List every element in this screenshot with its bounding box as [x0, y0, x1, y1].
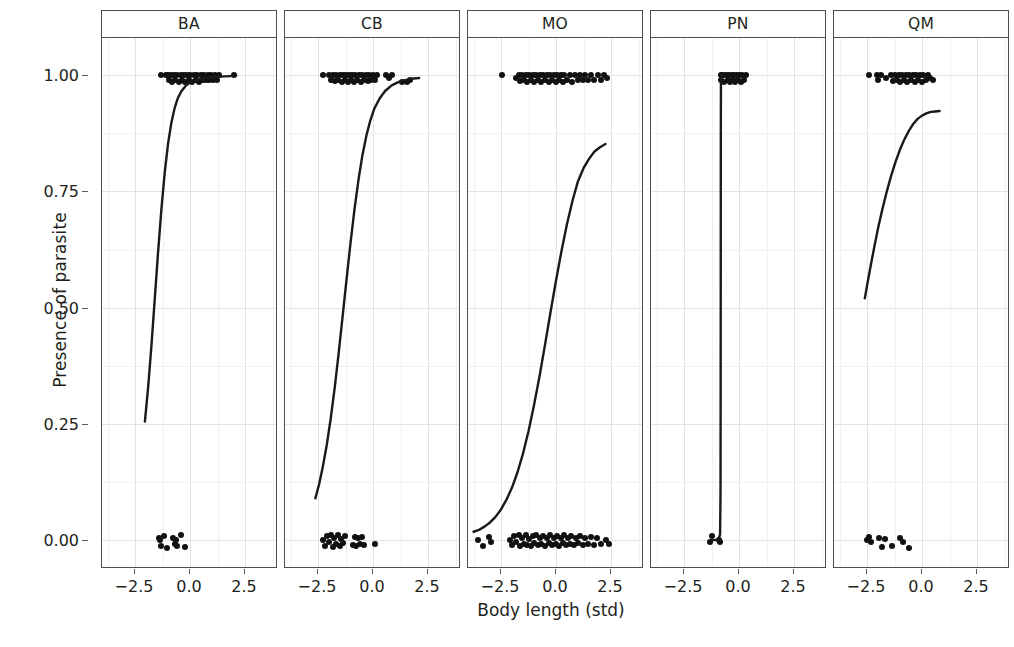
- panel-plot-inner: [285, 38, 459, 567]
- x-axis-tick-label: −2.5: [115, 577, 154, 596]
- panel-strip-label: BA: [101, 10, 277, 38]
- x-axis-tick: [244, 569, 245, 574]
- y-axis-tick: [82, 308, 88, 309]
- x-axis-tick: [500, 569, 501, 574]
- facet-panel-pn: PN: [650, 10, 826, 568]
- fitted-logistic-curve: [651, 38, 826, 568]
- fitted-logistic-curve: [468, 38, 643, 568]
- y-axis-tick-label: 1.00: [43, 66, 79, 85]
- panel-plot-inner: [102, 38, 276, 567]
- x-axis-tick: [189, 569, 190, 574]
- facet-panel-cb: CB: [284, 10, 460, 568]
- panel-plot-area: [467, 38, 643, 568]
- x-axis-tick: [610, 569, 611, 574]
- x-axis-tick: [372, 569, 373, 574]
- y-axis-tick: [82, 540, 88, 541]
- x-axis-tick-label: 2.5: [597, 577, 622, 596]
- x-axis-tick-label: 2.5: [231, 577, 256, 596]
- x-axis-title: Body length (std): [101, 600, 1001, 620]
- chart-root: Presence of parasite 0.000.250.500.751.0…: [0, 0, 1014, 647]
- x-axis-tick: [317, 569, 318, 574]
- y-axis-tick: [82, 191, 88, 192]
- x-axis-tick: [738, 569, 739, 574]
- facet-panel-mo: MO: [467, 10, 643, 568]
- x-axis-tick: [976, 569, 977, 574]
- x-axis-tick-label: 0.0: [908, 577, 933, 596]
- panel-strip-label: CB: [284, 10, 460, 38]
- x-axis-tick-label: 2.5: [414, 577, 439, 596]
- panel-plot-inner: [468, 38, 642, 567]
- panel-strip-label: QM: [833, 10, 1009, 38]
- fitted-logistic-curve: [102, 38, 277, 568]
- panel-plot-area: [284, 38, 460, 568]
- x-axis-tick: [793, 569, 794, 574]
- y-axis-tick-labels: 0.000.250.500.751.00: [0, 0, 92, 647]
- facet-panel-ba: BA: [101, 10, 277, 568]
- panel-strip-label: PN: [650, 10, 826, 38]
- x-axis-tick: [555, 569, 556, 574]
- x-axis-tick: [134, 569, 135, 574]
- y-axis-tick: [82, 424, 88, 425]
- panel-strip-label: MO: [467, 10, 643, 38]
- x-axis-tick-label: 2.5: [780, 577, 805, 596]
- x-axis-tick-label: 0.0: [176, 577, 201, 596]
- x-axis-tick-label: 2.5: [963, 577, 988, 596]
- x-axis-tick-label: −2.5: [481, 577, 520, 596]
- x-axis-tick: [866, 569, 867, 574]
- x-axis-tick-label: 0.0: [725, 577, 750, 596]
- panel-plot-area: [101, 38, 277, 568]
- y-axis-tick-label: 0.50: [43, 298, 79, 317]
- x-axis-tick: [427, 569, 428, 574]
- x-axis-tick-label: −2.5: [298, 577, 337, 596]
- x-axis-tick: [683, 569, 684, 574]
- facet-panel-qm: QM: [833, 10, 1009, 568]
- y-axis-tick-label: 0.75: [43, 182, 79, 201]
- fitted-logistic-curve: [834, 38, 1009, 568]
- x-axis-tick: [921, 569, 922, 574]
- panel-plot-area: [833, 38, 1009, 568]
- y-axis-tick-label: 0.25: [43, 414, 79, 433]
- x-axis-tick-label: 0.0: [542, 577, 567, 596]
- panel-plot-inner: [651, 38, 825, 567]
- panel-plot-inner: [834, 38, 1008, 567]
- x-axis-tick-label: −2.5: [664, 577, 703, 596]
- x-axis-tick-label: −2.5: [847, 577, 886, 596]
- y-axis-tick-label: 0.00: [43, 531, 79, 550]
- y-axis-tick: [82, 75, 88, 76]
- panel-plot-area: [650, 38, 826, 568]
- fitted-logistic-curve: [285, 38, 460, 568]
- x-axis-tick-label: 0.0: [359, 577, 384, 596]
